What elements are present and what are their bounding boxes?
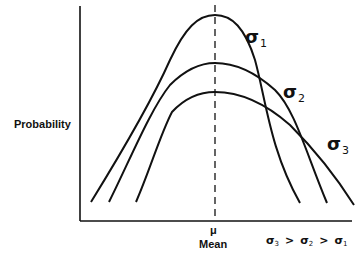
sigma-symbol: σ	[245, 26, 259, 47]
sigma-symbol: σ	[335, 234, 344, 247]
sigma-symbol: σ	[266, 234, 275, 247]
sigma-subscript: 3	[342, 144, 349, 157]
curve-label-sigma3: σ3	[327, 133, 349, 157]
curve-label-sigma1: σ1	[245, 26, 267, 50]
sigma-subscript: 2	[309, 240, 313, 248]
sigma-subscript: 2	[298, 92, 305, 105]
sigma-subscript: 3	[275, 240, 279, 248]
y-axis-label: Probability	[14, 118, 71, 130]
greater-than: >	[319, 234, 328, 247]
x-axis-label-mean: Mean	[199, 238, 227, 250]
curve-label-sigma2: σ2	[283, 81, 305, 105]
sigma-symbol: σ	[283, 81, 297, 102]
sigma-symbol: σ	[327, 133, 341, 154]
sigma-subscript: 1	[260, 37, 267, 50]
mu-label: μ	[210, 224, 217, 236]
sigma-subscript: 1	[343, 240, 347, 248]
sigma-symbol: σ	[300, 234, 309, 247]
greater-than: >	[285, 234, 294, 247]
sigma-relation-annotation: σ3>σ2>σ1	[266, 234, 348, 248]
